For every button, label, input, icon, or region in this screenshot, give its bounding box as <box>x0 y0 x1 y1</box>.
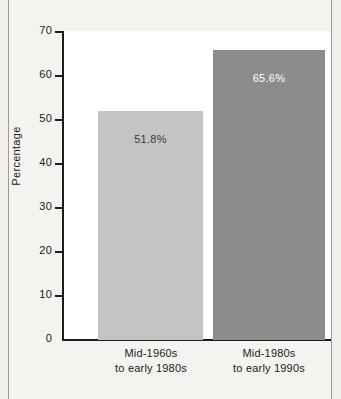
x-category-label-line2: to early 1990s <box>194 361 341 376</box>
x-category-label-line1: Mid-1960s <box>124 347 177 359</box>
y-tick-mark <box>55 75 63 77</box>
y-tick-mark <box>55 251 63 253</box>
y-tick-label: 10 <box>24 288 52 300</box>
y-tick-label: 40 <box>24 156 52 168</box>
page-rule-right <box>331 0 332 399</box>
y-tick-mark <box>55 31 63 33</box>
y-axis-title: Percentage <box>10 121 22 191</box>
bars-layer: 51.8% 65.6% <box>63 31 331 340</box>
y-tick-label: 30 <box>24 200 52 212</box>
bar-mid-1980s-to-early-1990s: 65.6% <box>213 50 325 340</box>
page-rule-left <box>8 0 9 399</box>
y-tick-mark <box>55 207 63 209</box>
y-tick-mark <box>55 163 63 165</box>
x-category-label-1: Mid-1980s to early 1990s <box>194 346 341 376</box>
y-tick-mark <box>55 295 63 297</box>
y-tick-label: 20 <box>24 244 52 256</box>
y-tick-mark <box>55 119 63 121</box>
y-tick-label: 50 <box>24 112 52 124</box>
y-tick-label: 0 <box>24 332 52 344</box>
bar-mid-1960s-to-early-1980s: 51.8% <box>98 111 203 340</box>
x-axis-category-labels: Mid-1960s to early 1980s Mid-1980s to ea… <box>63 346 331 391</box>
y-tick-label: 70 <box>24 24 52 36</box>
y-tick-label: 60 <box>24 68 52 80</box>
bar-chart-figure: Percentage 70 60 50 40 30 20 10 <box>0 0 341 399</box>
x-category-label-line1: Mid-1980s <box>242 347 295 359</box>
bar-value-label: 51.8% <box>98 133 203 145</box>
bar-value-label: 65.6% <box>213 72 325 84</box>
